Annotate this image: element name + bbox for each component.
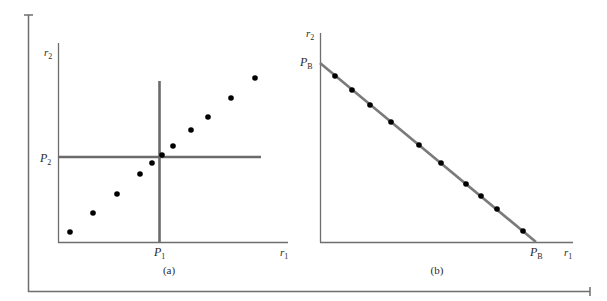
scatter-point bbox=[332, 73, 338, 79]
scatter-point bbox=[438, 160, 444, 166]
scatter-point bbox=[520, 228, 526, 234]
scatter-point bbox=[349, 87, 355, 93]
panel-b: r2 PB PB r1 (b) bbox=[299, 27, 573, 277]
scatter-point bbox=[478, 193, 484, 199]
scatter-point bbox=[90, 210, 96, 216]
panel-a-x-axis-label: r1 bbox=[280, 246, 288, 261]
scatter-point bbox=[228, 95, 234, 101]
panel-a-crosshair bbox=[58, 81, 261, 242]
scatter-point bbox=[252, 75, 258, 81]
scatter-point bbox=[114, 191, 120, 197]
scatter-point bbox=[416, 142, 422, 148]
panel-b-y-intercept-label: PB bbox=[299, 55, 313, 71]
panel-a-y-axis-label: r2 bbox=[44, 46, 52, 61]
scatter-point bbox=[388, 119, 394, 125]
scatter-point bbox=[188, 127, 194, 133]
scatter-point bbox=[149, 160, 155, 166]
figure-canvas: r2 P2 P1 r1 (a) r2 PB PB r1 (b) bbox=[0, 0, 607, 301]
scatter-point bbox=[67, 229, 73, 235]
scatter-point bbox=[159, 152, 165, 158]
panel-a-p1-label: P1 bbox=[153, 245, 165, 261]
panel-a-caption: (a) bbox=[163, 264, 176, 277]
scatter-point bbox=[463, 181, 469, 187]
panel-b-x-axis-label: r1 bbox=[564, 246, 572, 261]
scatter-point bbox=[205, 114, 211, 120]
scatter-point bbox=[367, 102, 373, 108]
panel-b-axes bbox=[320, 33, 573, 243]
panel-b-y-axis-label: r2 bbox=[306, 27, 314, 42]
scatter-point bbox=[170, 143, 176, 149]
scatter-point bbox=[137, 171, 143, 177]
panel-b-caption: (b) bbox=[431, 264, 444, 277]
panel-a-scatter-points bbox=[67, 75, 258, 235]
panel-a-p2-label: P2 bbox=[39, 151, 51, 167]
panel-a: r2 P2 P1 r1 (a) bbox=[39, 43, 288, 277]
panel-b-x-intercept-label: PB bbox=[529, 245, 543, 261]
scatter-point bbox=[494, 206, 500, 212]
